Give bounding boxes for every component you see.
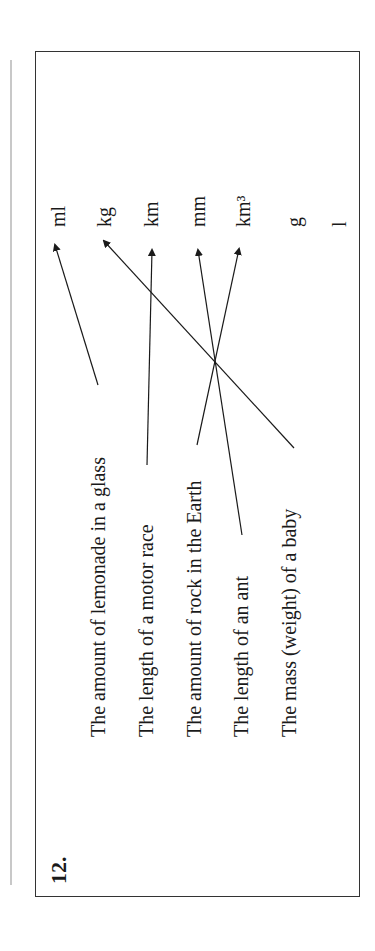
unit-km: km [140,201,163,227]
unit-l: l [328,221,351,227]
unit-kg: kg [93,207,116,227]
page-margin-line [10,60,12,885]
question-number: 12. [46,857,72,885]
unit-mm: mm [187,196,210,227]
item-rock-earth: The amount of rock in the Earth [183,480,206,737]
unit-ml: ml [47,206,70,227]
question-box [35,51,360,897]
unit-km3: km³ [232,195,255,227]
item-ant-length: The length of an ant [230,576,253,737]
item-baby-mass: The mass (weight) of a baby [278,509,301,737]
item-lemonade: The amount of lemonade in a glass [87,457,110,737]
item-motor-race: The length of a motor race [135,524,158,737]
unit-g: g [283,217,306,227]
